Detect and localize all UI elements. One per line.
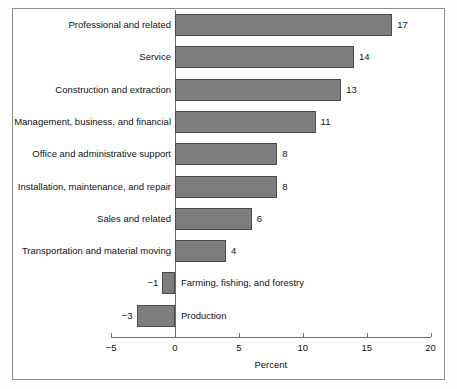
category-label: Farming, fishing, and forestry [181, 277, 304, 289]
x-axis-line [111, 337, 431, 338]
x-axis-tick-label: 5 [219, 342, 259, 354]
category-label: Installation, maintenance, and repair [0, 181, 171, 193]
category-label: Transportation and material moving [0, 245, 171, 257]
bar [175, 79, 341, 101]
x-axis-tick-label: 0 [155, 342, 195, 354]
x-axis-tick-label: 15 [347, 342, 387, 354]
category-label: Service [0, 51, 171, 63]
bar [162, 272, 175, 294]
value-label: 17 [397, 19, 408, 31]
chart-figure: −505101520Professional and related17Serv… [0, 0, 457, 389]
value-label: 6 [257, 213, 262, 225]
bar [175, 240, 226, 262]
x-axis-tick-label: 20 [411, 342, 451, 354]
value-label: −3 [111, 310, 133, 322]
category-label: Sales and related [0, 213, 171, 225]
bar [175, 143, 277, 165]
bar [175, 111, 316, 133]
value-label: 14 [359, 51, 370, 63]
x-axis-tick [431, 333, 432, 337]
category-label: Office and administrative support [0, 148, 171, 160]
value-label: 4 [231, 245, 236, 257]
category-label: Professional and related [0, 19, 171, 31]
category-label: Construction and extraction [0, 84, 171, 96]
chart-plot-area: −505101520Professional and related17Serv… [0, 0, 457, 389]
bar [175, 208, 252, 230]
x-axis-tick [367, 333, 368, 337]
value-label: −1 [136, 277, 158, 289]
x-axis-tick [175, 333, 176, 337]
value-label: 11 [321, 116, 331, 128]
bar [175, 176, 277, 198]
x-axis-tick [239, 333, 240, 337]
x-axis-tick [303, 333, 304, 337]
x-axis-tick-label: −5 [91, 342, 131, 354]
x-axis-tick-label: 10 [283, 342, 323, 354]
category-label: Management, business, and financial [0, 116, 171, 128]
x-axis-title: Percent [111, 359, 431, 371]
x-axis-tick [111, 333, 112, 337]
value-label: 8 [282, 181, 287, 193]
value-label: 8 [282, 148, 287, 160]
value-label: 13 [346, 84, 357, 96]
bar [137, 305, 175, 327]
category-label: Production [181, 310, 226, 322]
bar [175, 46, 354, 68]
bar [175, 14, 392, 36]
